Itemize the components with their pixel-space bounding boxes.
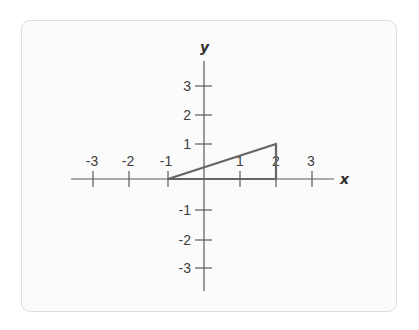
x-tick-label: -2 [122, 153, 135, 169]
x-tick-label: -3 [86, 153, 99, 169]
x-tick-label: 3 [307, 153, 315, 169]
y-tick-label: 2 [183, 107, 191, 123]
y-tick-label: -2 [179, 232, 192, 248]
y-axis-label: y [200, 39, 210, 55]
y-tick-label: -1 [179, 202, 192, 218]
coordinate-plane: -3 -2 -1 1 2 3 3 2 1 -1 -2 -3 x y [0, 0, 419, 330]
x-tick-label: -1 [160, 153, 173, 169]
y-tick-label: -3 [179, 260, 192, 276]
y-tick-label: 3 [183, 78, 191, 94]
x-axis-label: x [339, 171, 350, 187]
y-tick-label: 1 [183, 136, 191, 152]
